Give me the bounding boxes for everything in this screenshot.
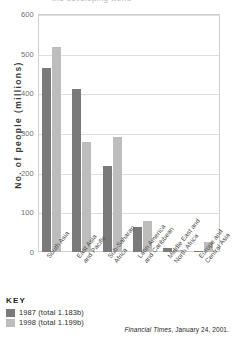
legend-label: 1998 (total 1.199b) [19, 318, 84, 327]
bar-group [133, 14, 157, 252]
y-tick-label: 200 [21, 168, 34, 177]
bar-group [42, 14, 66, 252]
chart-page: the developing world No. of people (mill… [0, 0, 233, 340]
legend-item: 1987 (total 1.183b) [6, 308, 126, 317]
bar-group [103, 14, 127, 252]
source-note: Financial Times, January 24, 2001. [124, 326, 229, 333]
bar [52, 47, 61, 252]
bar-group [163, 14, 187, 252]
source-rest: , January 24, 2001. [171, 326, 229, 333]
legend-swatch [6, 309, 15, 317]
bar [42, 68, 51, 252]
source-publication: Financial Times [124, 326, 171, 333]
y-tick-label: 600 [21, 10, 34, 19]
legend-item: 1998 (total 1.199b) [6, 318, 126, 327]
bar-group [194, 14, 218, 252]
legend: KEY 1987 (total 1.183b)1998 (total 1.199… [6, 296, 126, 328]
legend-title: KEY [6, 296, 126, 305]
legend-swatch [6, 319, 15, 327]
y-tick-label: 0 [30, 248, 34, 257]
legend-label: 1987 (total 1.183b) [19, 308, 84, 317]
bars-layer [38, 14, 220, 252]
legend-rows: 1987 (total 1.183b)1998 (total 1.199b) [6, 308, 126, 327]
y-axis-title: No. of people (millions) [13, 50, 23, 200]
y-tick-label: 400 [21, 89, 34, 98]
clipped-title: the developing world [52, 0, 202, 3]
bar [72, 89, 81, 252]
y-tick-label: 500 [21, 49, 34, 58]
y-tick-label: 100 [21, 208, 34, 217]
y-tick-label: 300 [21, 129, 34, 138]
bar-group [72, 14, 96, 252]
